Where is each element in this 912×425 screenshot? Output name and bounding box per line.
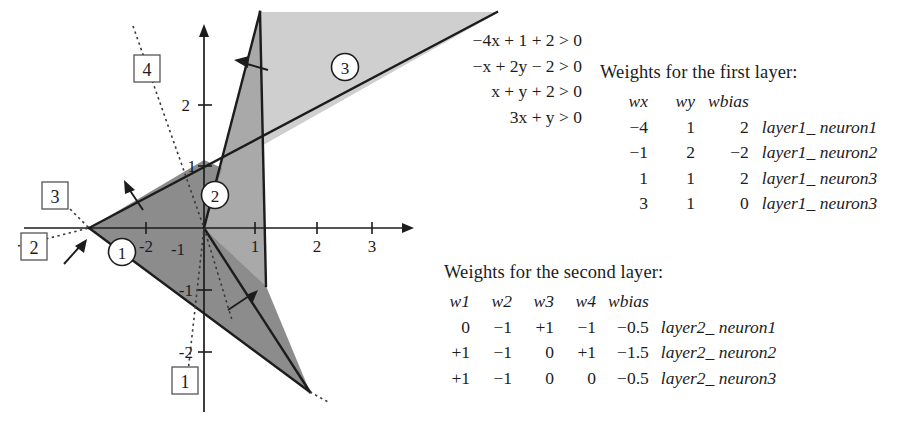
dotted-line-3 [66, 205, 89, 228]
x-tick-label--1: -1 [171, 240, 185, 259]
layer1-r0-wx: −4 [600, 115, 648, 141]
layer2-r0-wbias: −0.5 [596, 315, 649, 341]
inequality-0: −4x + 1 + 2 > 0 [392, 28, 582, 54]
layer1-header-wx: wx [600, 89, 648, 115]
inequality-1: −x + 2y − 2 > 0 [392, 54, 582, 80]
layer2-r2-w3: 0 [512, 366, 554, 392]
layer2-header-w1: w1 [430, 289, 470, 315]
layer2-r1-name: layer2_ neuron2 [649, 340, 777, 366]
layer1-r0-wbias: 2 [695, 115, 749, 141]
layer2-r0-w1: 0 [430, 315, 470, 341]
y-axis-arrowhead [199, 24, 209, 37]
layer1-r2-wx: 1 [600, 166, 648, 192]
layer1-table: wx wy wbias −4 1 2 layer1_ neuron1 −1 2 … [600, 89, 877, 217]
inequality-2: x + y + 2 > 0 [392, 79, 582, 105]
figure-page: 1 2 3 4 3 2 [0, 0, 912, 425]
x-tick-label--2: -2 [139, 237, 153, 256]
layer1-r0-name: layer1_ neuron1 [749, 115, 878, 141]
layer2-caption: Weights for the second layer: [444, 262, 776, 283]
layer1-r3-wx: 3 [600, 191, 648, 217]
layer2-header-w2: w2 [470, 289, 512, 315]
x-tick-label-3: 3 [368, 237, 377, 256]
layer2-r1-w4: +1 [554, 340, 596, 366]
table-row: +1 −1 0 +1 −1.5 layer2_ neuron2 [430, 340, 776, 366]
layer1-caption: Weights for the first layer: [600, 62, 877, 83]
layer2-r2-w4: 0 [554, 366, 596, 392]
line-label-3-text: 3 [51, 187, 60, 207]
y-tick-label-1: 1 [188, 157, 197, 176]
line-label-4-text: 4 [143, 60, 152, 80]
layer2-r1-wbias: −1.5 [596, 340, 649, 366]
layer2-r0-w3: +1 [512, 315, 554, 341]
x-tick-label-2: 2 [313, 237, 322, 256]
dotted-line-3-ext [310, 392, 330, 403]
table-row: +1 −1 0 0 −0.5 layer2_ neuron3 [430, 366, 776, 392]
layer1-r2-name: layer1_ neuron3 [749, 166, 878, 192]
layer2-r1-w3: 0 [512, 340, 554, 366]
layer2-header-row: w1 w2 w3 w4 wbias [430, 289, 776, 315]
layer1-r3-wbias: 0 [695, 191, 749, 217]
region-marker-1-label: 1 [118, 244, 127, 263]
layer2-header-wbias: wbias [596, 289, 649, 315]
layer2-r0-w4: −1 [554, 315, 596, 341]
layer1-r2-wbias: 2 [695, 166, 749, 192]
line-label-3: 3 [42, 182, 68, 209]
line-label-2-text: 2 [30, 238, 39, 258]
layer2-r2-w2: −1 [470, 366, 512, 392]
layer2-header-w4: w4 [554, 289, 596, 315]
layer2-r2-w1: +1 [430, 366, 470, 392]
layer2-r1-w2: −1 [470, 340, 512, 366]
layer2-r1-w1: +1 [430, 340, 470, 366]
line-label-1-text: 1 [181, 372, 190, 392]
table-row: 1 1 2 layer1_ neuron3 [600, 166, 877, 192]
table-row: −1 2 −2 layer1_ neuron2 [600, 140, 877, 166]
layer1-r1-name: layer1_ neuron2 [749, 140, 878, 166]
y-tick-label-2: 2 [182, 96, 191, 115]
table-row: 0 −1 +1 −1 −0.5 layer2_ neuron1 [430, 315, 776, 341]
layer2-r0-name: layer2_ neuron1 [649, 315, 777, 341]
layer2-r0-w2: −1 [470, 315, 512, 341]
arrow-region1-lower [64, 239, 87, 264]
layer2-r2-wbias: −0.5 [596, 366, 649, 392]
table-row: 3 1 0 layer1_ neuron3 [600, 191, 877, 217]
layer1-r3-wy: 1 [648, 191, 695, 217]
layer2-table: w1 w2 w3 w4 wbias 0 −1 +1 −1 −0.5 layer2… [430, 289, 776, 391]
layer2-r2-name: layer2_ neuron3 [649, 366, 777, 392]
layer2-panel: Weights for the second layer: w1 w2 w3 w… [430, 262, 776, 391]
layer1-r3-name: layer1_ neuron3 [749, 191, 878, 217]
inequality-system: −4x + 1 + 2 > 0 −x + 2y − 2 > 0 x + y + … [392, 28, 582, 130]
layer1-r1-wy: 2 [648, 140, 695, 166]
layer2-header-w3: w3 [512, 289, 554, 315]
layer1-r1-wx: −1 [600, 140, 648, 166]
region-marker-3: 3 [332, 54, 359, 81]
y-tick-label--1: -1 [179, 281, 193, 300]
region-marker-1: 1 [109, 239, 136, 266]
layer1-header-wy: wy [648, 89, 695, 115]
x-tick-label-1: 1 [251, 237, 260, 256]
layer1-r2-wy: 1 [648, 166, 695, 192]
line-label-1: 1 [172, 367, 198, 394]
line-label-2: 2 [21, 233, 47, 260]
layer2-header-name [649, 289, 777, 315]
inequality-3: 3x + y > 0 [392, 105, 582, 131]
x-axis-arrowhead [402, 223, 414, 233]
layer1-r1-wbias: −2 [695, 140, 749, 166]
layer1-header-wbias: wbias [695, 89, 749, 115]
layer1-panel: Weights for the first layer: wx wy wbias… [600, 62, 877, 217]
line-label-4: 4 [134, 55, 160, 82]
y-tick-label--2: -2 [179, 343, 193, 362]
region-marker-2: 2 [202, 182, 229, 209]
layer1-r0-wy: 1 [648, 115, 695, 141]
region-marker-2-label: 2 [211, 187, 220, 206]
table-row: −4 1 2 layer1_ neuron1 [600, 115, 877, 141]
layer1-header-row: wx wy wbias [600, 89, 877, 115]
region-marker-3-label: 3 [341, 59, 350, 78]
layer1-header-name [749, 89, 878, 115]
